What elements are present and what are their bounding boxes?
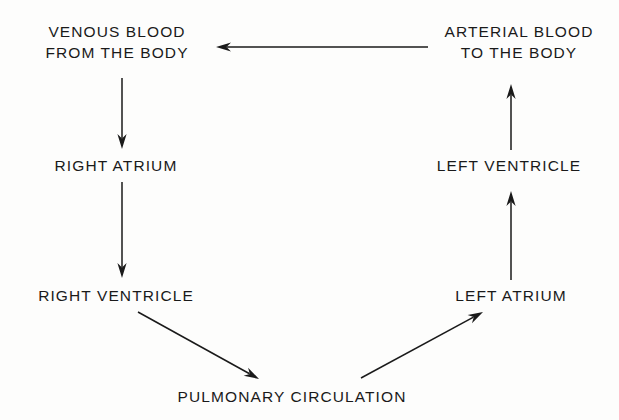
- arrow-head: [244, 368, 259, 379]
- node-label-line: LEFT VENTRICLE: [437, 155, 581, 176]
- arrow-arterial-blood-to-venous-blood: [216, 42, 428, 51]
- node-label-line: PULMONARY CIRCULATION: [178, 386, 407, 407]
- arrow-pulmonary-circulation-to-left-atrium: [361, 312, 483, 378]
- node-pulmonary-circulation: PULMONARY CIRCULATION: [178, 386, 407, 407]
- arrow-head: [468, 312, 483, 323]
- node-label-line: LEFT ATRIUM: [455, 285, 566, 306]
- node-left-atrium: LEFT ATRIUM: [455, 285, 566, 306]
- node-right-atrium: RIGHT ATRIUM: [55, 155, 178, 176]
- edge-layer: [0, 0, 619, 420]
- node-right-ventricle: RIGHT VENTRICLE: [38, 285, 194, 306]
- arrow-left-atrium-to-left-ventricle: [506, 191, 515, 280]
- arrow-shaft: [361, 317, 474, 378]
- arrow-right-ventricle-to-pulmonary-circulation: [138, 312, 259, 379]
- node-label-line: FROM THE BODY: [45, 42, 188, 63]
- arrow-right-atrium-to-right-ventricle: [117, 182, 126, 278]
- node-venous-blood-from-the-body: VENOUS BLOODFROM THE BODY: [45, 21, 188, 63]
- node-left-ventricle: LEFT VENTRICLE: [437, 155, 581, 176]
- arrow-venous-blood-to-right-atrium: [117, 78, 126, 149]
- node-label-line: RIGHT ATRIUM: [55, 155, 178, 176]
- arrow-left-ventricle-to-arterial-blood: [506, 84, 515, 150]
- arrow-shaft: [138, 312, 250, 374]
- node-label-line: ARTERIAL BLOOD: [445, 21, 594, 42]
- node-label-line: VENOUS BLOOD: [45, 21, 188, 42]
- node-label-line: TO THE BODY: [445, 42, 594, 63]
- blood-circulation-diagram: VENOUS BLOODFROM THE BODYRIGHT ATRIUMRIG…: [0, 0, 619, 420]
- node-label-line: RIGHT VENTRICLE: [38, 285, 194, 306]
- node-arterial-blood-to-the-body: ARTERIAL BLOODTO THE BODY: [445, 21, 594, 63]
